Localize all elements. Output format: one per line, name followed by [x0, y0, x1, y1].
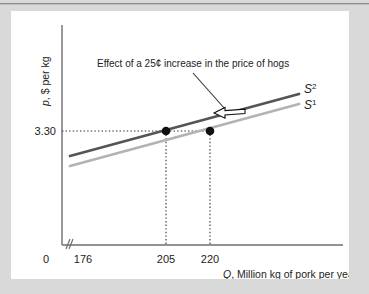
- figure-root: Effect of a 25¢ increase in the price of…: [0, 0, 369, 294]
- figure-panel: Effect of a 25¢ increase in the price of…: [11, 11, 349, 279]
- y-axis-title: p, $ per kg: [39, 56, 51, 107]
- x-tick-label-176: 176: [74, 253, 92, 265]
- top-divider-line-shadow: [0, 4, 369, 5]
- x-axis-title-symbol: Q: [223, 268, 231, 279]
- y-tick-label-3-30: 3.30: [35, 125, 56, 137]
- annotation-leader-line: [193, 73, 225, 109]
- x-axis-break-icon: [66, 239, 73, 249]
- data-point-s2-205: [162, 127, 171, 136]
- curve-label-s2: S2: [304, 82, 317, 96]
- supply-curve-s1: [70, 104, 299, 166]
- x-tick-label-220: 220: [201, 253, 219, 265]
- shift-annotation-label: Effect of a 25¢ increase in the price of…: [97, 58, 289, 69]
- supply-shift-chart: Effect of a 25¢ increase in the price of…: [11, 11, 349, 279]
- x-axis-title: Q, Million kg of pork per year: [223, 268, 349, 279]
- curve-label-s1: S1: [304, 98, 317, 112]
- data-point-s1-220: [206, 127, 215, 136]
- x-axis-title-text: , Million kg of pork per year: [231, 268, 349, 279]
- supply-curve-s2: [70, 94, 299, 156]
- x-tick-label-205: 205: [157, 253, 175, 265]
- y-axis-title-text: , $ per kg: [39, 56, 51, 100]
- x-origin-label: 0: [43, 253, 49, 265]
